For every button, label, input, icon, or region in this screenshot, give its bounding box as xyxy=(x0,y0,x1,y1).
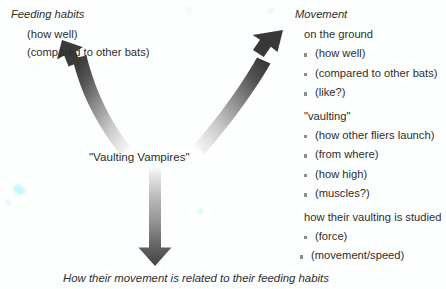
group-item: (force) xyxy=(295,227,441,246)
group-item-label: (how other fliers launch) xyxy=(315,129,434,141)
bullet-icon xyxy=(304,174,307,177)
concept-map-diagram: Feeding habits (how well) (compared to o… xyxy=(0,0,446,289)
bullet-icon xyxy=(304,236,307,239)
group-item-label: (how well) xyxy=(315,47,365,59)
group-item: (how well) xyxy=(295,44,441,63)
group-item: (compared to other bats) xyxy=(295,64,441,83)
arrow-to-relationship-icon xyxy=(139,167,172,266)
bullet-icon xyxy=(300,255,303,258)
right-branch-group-studied: how their vaulting is studied (force) (m… xyxy=(295,208,441,266)
right-branch-heading: Movement xyxy=(295,8,347,21)
right-branch-group-vaulting: "vaulting" (how other fliers launch) (fr… xyxy=(295,107,441,204)
bottom-caption: How their movement is related to their f… xyxy=(63,272,329,285)
right-branch-group-on-the-ground: on the ground (how well) (compared to ot… xyxy=(295,25,441,103)
left-branch-heading: Feeding habits xyxy=(11,8,84,21)
group-label: "vaulting" xyxy=(295,107,441,126)
bullet-icon xyxy=(304,73,307,76)
group-label: how their vaulting is studied xyxy=(295,208,441,227)
group-item-label: (movement/speed) xyxy=(311,249,404,261)
arrow-to-movement-icon xyxy=(194,30,284,154)
group-item-label: (compared to other bats) xyxy=(315,67,438,79)
bullet-icon xyxy=(304,193,307,196)
group-item: (movement/speed) xyxy=(295,246,441,265)
bullet-icon xyxy=(304,154,307,157)
group-item: (how high) xyxy=(295,165,441,184)
group-item: (from where) xyxy=(295,145,441,164)
bullet-icon xyxy=(304,53,307,56)
group-item: (how other fliers launch) xyxy=(295,126,441,145)
group-label: on the ground xyxy=(295,25,441,44)
group-item-label: (how high) xyxy=(315,168,367,180)
group-item-label: (force) xyxy=(315,230,347,242)
center-node-label: "Vaulting Vampires" xyxy=(89,150,190,163)
group-item-label: (like?) xyxy=(315,86,345,98)
group-item: (like?) xyxy=(295,83,441,102)
right-branch-groups: on the ground (how well) (compared to ot… xyxy=(295,25,441,266)
left-branch-item-1: (compared to other bats) xyxy=(27,46,150,59)
left-branch-item-0: (how well) xyxy=(27,28,77,41)
bullet-icon xyxy=(304,135,307,138)
group-item-label: (muscles?) xyxy=(315,187,370,199)
group-item-label: (from where) xyxy=(315,148,378,160)
bullet-icon xyxy=(304,92,307,95)
group-item: (muscles?) xyxy=(295,184,441,203)
